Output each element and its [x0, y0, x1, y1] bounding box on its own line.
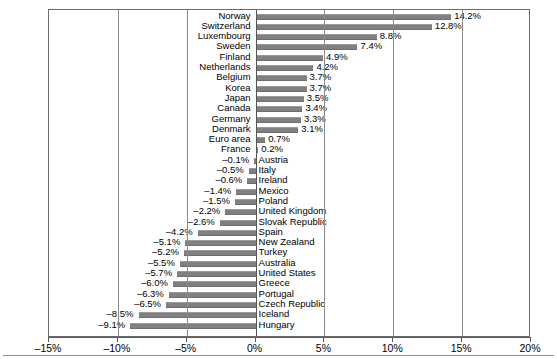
zero-axis-line: [256, 10, 257, 336]
bar: [256, 137, 266, 143]
bar: [256, 55, 323, 61]
gridline--10: [118, 10, 119, 336]
bar-row: Germany3.3%: [49, 115, 529, 125]
bar: [139, 312, 256, 318]
value-label: 7.4%: [360, 41, 382, 51]
bar: [256, 14, 452, 20]
category-label: United Kingdom: [259, 206, 327, 216]
x-tick-label: 10%: [382, 342, 403, 354]
bar: [256, 34, 377, 40]
bar: [185, 240, 255, 246]
plot-area: Norway14.2%Switzerland12.8%Luxembourg8.8…: [48, 9, 530, 337]
bar: [173, 281, 256, 287]
bar-row: Luxembourg8.8%: [49, 32, 529, 42]
bar: [198, 230, 256, 236]
bar-row: Italy–0.5%: [49, 166, 529, 176]
bar: [130, 323, 255, 329]
value-label: 12.8%: [435, 21, 462, 31]
x-axis-line: [48, 337, 530, 338]
bar-row: Mexico–1.4%: [49, 187, 529, 197]
gridline--5: [187, 10, 188, 336]
value-label: –6.5%: [134, 299, 161, 309]
bar: [166, 302, 256, 308]
x-tick-label: 5%: [316, 342, 331, 354]
bar-row: Netherlands4.2%: [49, 63, 529, 73]
bar-row: Finland4.9%: [49, 53, 529, 63]
bar: [256, 44, 358, 50]
bar: [256, 24, 432, 30]
bar: [256, 96, 304, 102]
bar: [247, 178, 255, 184]
bar-rows-layer: Norway14.2%Switzerland12.8%Luxembourg8.8…: [49, 10, 529, 336]
x-tick-label: 0%: [247, 342, 262, 354]
value-label: –2.2%: [193, 206, 220, 216]
bar-row: Sweden7.4%: [49, 42, 529, 52]
bar: [220, 220, 256, 226]
bar: [256, 117, 301, 123]
bar: [256, 106, 303, 112]
gridline-5: [324, 10, 325, 336]
bar-row: Canada3.4%: [49, 104, 529, 114]
bar: [256, 65, 314, 71]
bar: [256, 127, 299, 133]
x-tick-label: 15%: [451, 342, 472, 354]
bottom-divider: [3, 355, 554, 356]
bar-row: New Zealand–5.1%: [49, 238, 529, 248]
bar: [177, 271, 255, 277]
bar-row: Slovak Republic–2.6%: [49, 218, 529, 228]
value-label: –8.5%: [107, 309, 134, 319]
bar: [235, 199, 256, 205]
category-label: Hungary: [259, 320, 295, 330]
bar-row: Euro area0.7%: [49, 135, 529, 145]
bar: [249, 168, 256, 174]
category-label: Canada: [217, 103, 250, 113]
chart-container: Norway14.2%Switzerland12.8%Luxembourg8.8…: [0, 0, 557, 359]
bar-row: Austria–0.1%: [49, 156, 529, 166]
bar: [236, 189, 255, 195]
bar-row: Hungary–9.1%: [49, 321, 529, 331]
x-tick-label: –10%: [103, 342, 130, 354]
bar: [225, 209, 255, 215]
bar: [184, 250, 256, 256]
bar: [256, 75, 307, 81]
bar-row: Ireland–0.6%: [49, 176, 529, 186]
bar-row: Belgium3.7%: [49, 73, 529, 83]
bar-row: Korea3.7%: [49, 84, 529, 94]
value-label: –9.1%: [98, 320, 125, 330]
x-tick-label: –15%: [35, 342, 62, 354]
gridline-10: [393, 10, 394, 336]
gridline-15: [462, 10, 463, 336]
category-label: Iceland: [259, 309, 290, 319]
bar: [169, 292, 256, 298]
bar: [256, 86, 307, 92]
bar-row: France0.2%: [49, 145, 529, 155]
x-tick-label: 20%: [519, 342, 540, 354]
x-tick-label: –5%: [175, 342, 196, 354]
bar-row: Switzerland12.8%: [49, 22, 529, 32]
value-label: 8.8%: [380, 31, 402, 41]
value-label: 3.1%: [301, 124, 323, 134]
bar-row: Japan3.5%: [49, 94, 529, 104]
bar: [180, 261, 256, 267]
